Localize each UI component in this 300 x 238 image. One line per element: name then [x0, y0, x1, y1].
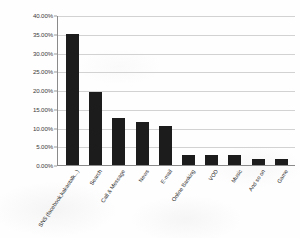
x-axis-tick-label: Online Banking — [171, 169, 196, 203]
y-axis-tick-mark — [54, 147, 57, 148]
x-axis-tick-label: News — [138, 169, 150, 184]
y-axis: 0.00%5.00%10.00%15.00%20.00%25.00%30.00%… — [0, 0, 53, 238]
bar-chart: 0.00%5.00%10.00%15.00%20.00%25.00%30.00%… — [0, 0, 300, 238]
y-axis-tick-label: 5.00% — [0, 144, 53, 150]
y-axis-tick-mark — [54, 53, 57, 54]
x-axis-tick-label: Game — [277, 169, 290, 185]
x-axis-tick-label: Music — [231, 169, 244, 184]
x-axis-tick-label: VOD — [209, 169, 220, 182]
x-axis-tick-label: Call & Message — [101, 169, 127, 204]
y-axis-tick-label: 20.00% — [0, 88, 53, 94]
y-axis-tick-mark — [54, 109, 57, 110]
bar — [228, 155, 241, 166]
y-axis-tick-label: 10.00% — [0, 125, 53, 131]
y-axis-tick-mark — [54, 91, 57, 92]
y-axis-tick-label: 30.00% — [0, 50, 53, 56]
y-axis-tick-label: 25.00% — [0, 69, 53, 75]
x-axis-tick-label: E-mail — [160, 169, 173, 185]
bar — [89, 92, 102, 165]
bar — [205, 155, 218, 166]
y-axis-tick-label: 0.00% — [0, 163, 53, 169]
x-axis-tick-label: And so on — [248, 169, 266, 193]
bar — [182, 155, 195, 166]
bar — [275, 159, 288, 165]
x-axis-tick-label: Search — [89, 169, 103, 187]
y-axis-tick-mark — [54, 34, 57, 35]
bar — [66, 34, 79, 165]
plot-area — [57, 16, 295, 166]
bar — [159, 126, 172, 165]
y-axis-tick-mark — [54, 166, 57, 167]
y-axis-tick-label: 35.00% — [0, 32, 53, 38]
bar — [112, 118, 125, 165]
x-axis: SNS (facebook,kakaotalk...)SearchCall & … — [57, 167, 295, 238]
y-axis-tick-label: 40.00% — [0, 13, 53, 19]
bar — [136, 122, 149, 165]
y-axis-tick-label: 15.00% — [0, 107, 53, 113]
y-axis-tick-mark — [54, 16, 57, 17]
y-axis-tick-mark — [54, 72, 57, 73]
bar — [252, 159, 265, 165]
bar-series — [58, 16, 295, 165]
y-axis-tick-mark — [54, 128, 57, 129]
